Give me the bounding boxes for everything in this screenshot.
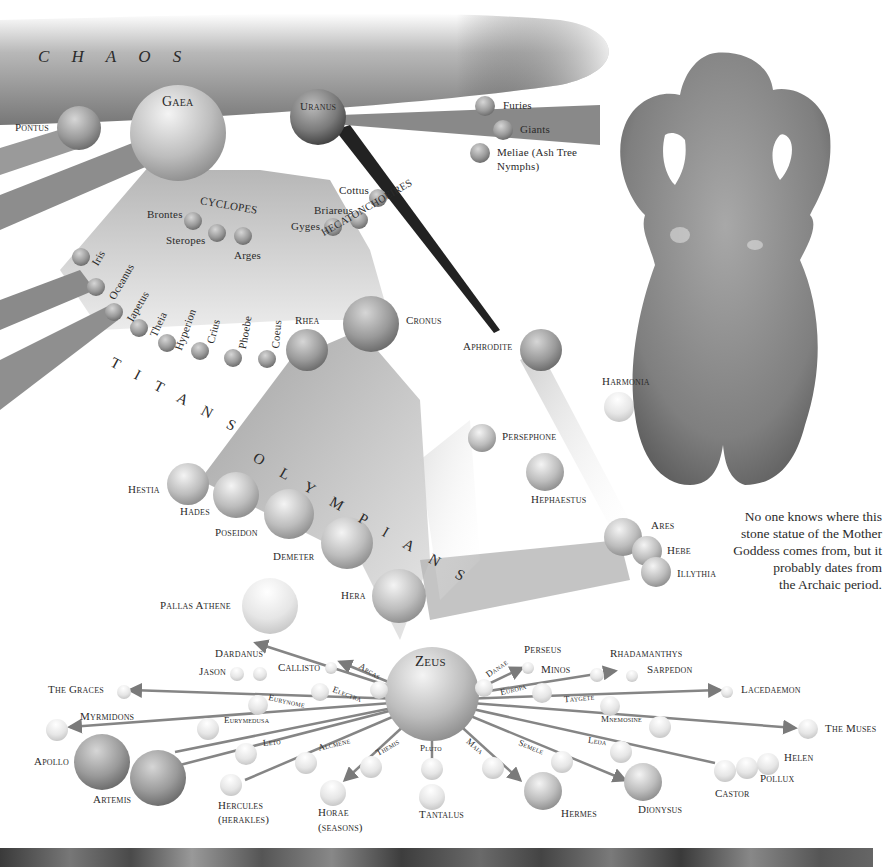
label-the-graces: The Graces	[48, 684, 104, 695]
label-hephaestus: Hephaestus	[531, 494, 586, 505]
label-persephone: Persephone	[502, 431, 556, 442]
label-hercules: Hercules	[218, 800, 263, 811]
label-helen: Helen	[784, 752, 813, 763]
label-gaea: Gaea	[162, 95, 193, 109]
label-cronus: Cronus	[406, 315, 442, 326]
label-pallas-athene: Pallas Athene	[160, 600, 231, 611]
label-perseus: Perseus	[524, 644, 561, 655]
label-tantalus: Tantalus	[419, 809, 464, 820]
label-rhadamanthys: Rhadamanthys	[610, 648, 682, 659]
label-horae: Horae	[318, 807, 349, 818]
statue-caption: No one knows where this stone statue of …	[690, 508, 882, 593]
label-rhea: Rhea	[295, 315, 320, 326]
label-giants: Giants	[520, 124, 550, 135]
label-demeter: Demeter	[273, 551, 314, 562]
label-pollux: Pollux	[760, 773, 794, 784]
caption-line: Goddess comes from, but it	[690, 542, 882, 559]
label-meliae: Meliae (Ash Tree	[497, 147, 577, 158]
label-eurymedusa: Eurymedusa	[224, 716, 269, 725]
label-sarpedon: Sarpedon	[647, 664, 693, 675]
caption-line: probably dates from	[690, 559, 882, 576]
label-myrmidons: Myrmidons	[80, 711, 134, 722]
label-artemis: Artemis	[93, 794, 131, 805]
label-pontus: Pontus	[15, 122, 49, 133]
label-aphrodite: Aphrodite	[463, 341, 512, 352]
label-steropes: Steropes	[166, 235, 205, 246]
label-dionysus: Dionysus	[638, 804, 682, 815]
label-hestia: Hestia	[128, 484, 160, 495]
label-callisto: Callisto	[278, 662, 320, 673]
label-brontes: Brontes	[147, 209, 183, 220]
label-briareus: Briareus	[314, 205, 353, 216]
label-harmonia: Harmonia	[602, 376, 650, 387]
bottom-painting-strip	[0, 848, 873, 867]
label-ares: Ares	[651, 520, 674, 531]
label-furies: Furies	[503, 100, 532, 111]
mother-goddess-statue-image	[605, 45, 845, 495]
group-label-chaos: C H A O S	[38, 48, 183, 65]
label-pluto: Pluto	[420, 744, 442, 753]
label-castor: Castor	[715, 788, 750, 799]
label-poseidon: Poseidon	[215, 527, 258, 538]
label-apollo: Apollo	[34, 756, 69, 767]
caption-line: stone statue of the Mother	[690, 525, 882, 542]
caption-line: the Archaic period.	[690, 576, 882, 593]
label-jason: Jason	[199, 666, 226, 677]
label-lacedaemon: Lacedaemon	[741, 684, 801, 695]
label-hermes: Hermes	[561, 808, 597, 819]
greek-gods-family-tree: C H A O S CYCLOPES HECATONCHOEIRES T I T…	[0, 0, 895, 867]
caption-line: No one knows where this	[690, 508, 882, 525]
label-cottus: Cottus	[339, 185, 369, 196]
label-horae-alt: (seasons)	[318, 822, 363, 833]
label-minos: Minos	[541, 664, 570, 675]
label-hera: Hera	[341, 590, 366, 601]
label-gyges: Gyges	[291, 221, 320, 232]
label-hades: Hades	[180, 506, 210, 517]
label-zeus: Zeus	[415, 654, 446, 669]
label-leto: Leto	[263, 737, 282, 748]
label-hercules-alt: (herakles)	[218, 814, 269, 825]
label-uranus: Uranus	[300, 101, 336, 112]
label-mnemosine: Mnemosine	[601, 715, 642, 724]
label-hebe: Hebe	[667, 545, 691, 556]
label-the-muses: The Muses	[825, 723, 876, 734]
label-meliae-nymphs: Nymphs)	[497, 161, 539, 172]
label-arges: Arges	[234, 250, 261, 261]
label-dardanus: Dardanus	[215, 648, 263, 659]
